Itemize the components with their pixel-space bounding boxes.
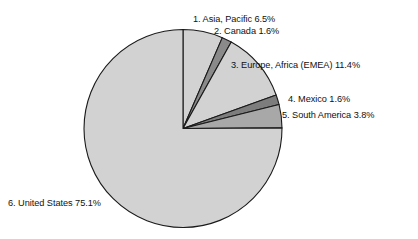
pie-label-canada: 2. Canada 1.6% — [214, 26, 279, 37]
pie-chart: 1. Asia, Pacific 6.5% 2. Canada 1.6% 3. … — [0, 0, 418, 239]
pie-label-mexico: 4. Mexico 1.6% — [288, 94, 350, 105]
pie-label-south-america: 5. South America 3.8% — [282, 110, 374, 121]
pie-label-asia-pacific: 1. Asia, Pacific 6.5% — [193, 14, 275, 25]
pie-label-europe-africa: 3. Europe, Africa (EMEA) 11.4% — [231, 60, 360, 71]
pie-label-united-states: 6. United States 75.1% — [8, 198, 101, 209]
